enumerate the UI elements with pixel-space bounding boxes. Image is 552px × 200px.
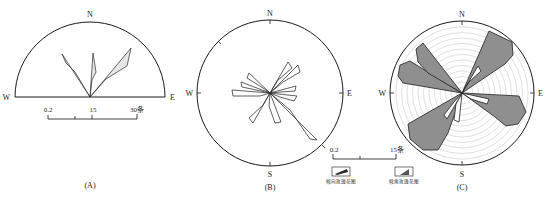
panel-b-label-south: S (268, 170, 272, 179)
panel-a-caption: (A) (84, 181, 95, 190)
panel-a-scale-left: 0.2 (44, 106, 53, 114)
legend: 倾向玫瑰花图 倾角玫瑰花图 (326, 167, 419, 185)
panel-b-label-north: N (267, 9, 273, 18)
middle-scale-right: 15条 (390, 145, 404, 154)
panel-c-caption: (C) (457, 183, 468, 192)
panel-c-label-west: W (378, 89, 386, 98)
middle-scale-left: 0.2 (330, 146, 339, 154)
rose-diagram-figure: N W E 0.2 15 30条 (A) (0, 0, 552, 200)
panel-b-label-west: W (185, 89, 193, 98)
panel-a-petal-ene (90, 48, 131, 97)
panel-b-ray-ssw (249, 93, 270, 123)
legend-label-dip-angle: 倾角玫瑰花图 (389, 178, 419, 185)
panel-a-petal-wnw (62, 54, 90, 97)
panel-b: N S W E (B) (185, 9, 352, 192)
panel-a-half-circle-frame (15, 22, 165, 97)
panel-c-label-east: E (538, 89, 543, 98)
middle-scale-bar: 0.2 15条 (330, 145, 404, 159)
panel-a-scale-bar: 0.2 15 30条 (44, 105, 144, 119)
panel-c-label-north: N (459, 10, 465, 19)
panel-c: N S W E (C) (378, 10, 543, 192)
panel-c-petal-ne (462, 31, 513, 93)
panel-a: N W E 0.2 15 30条 (A) (2, 10, 175, 190)
panel-a-label-north: N (87, 10, 93, 19)
panel-a-label-west: W (2, 93, 10, 102)
panel-c-label-south: S (460, 170, 464, 179)
panel-b-rays (232, 62, 317, 140)
panel-a-scale-right: 30条 (130, 105, 144, 114)
panel-a-label-east: E (170, 93, 175, 102)
panel-b-ray-nnw (247, 73, 270, 93)
legend-item-dip-angle: 倾角玫瑰花图 (389, 167, 419, 185)
panel-a-scale-mid: 15 (90, 106, 98, 114)
panel-a-petals (62, 48, 131, 97)
panel-b-ray-ese (270, 93, 317, 140)
panel-b-caption: (B) (265, 183, 276, 192)
legend-label-dip-direction: 倾向玫瑰花图 (326, 178, 356, 185)
panel-b-label-east: E (347, 89, 352, 98)
legend-item-dip-direction: 倾向玫瑰花图 (326, 167, 356, 185)
